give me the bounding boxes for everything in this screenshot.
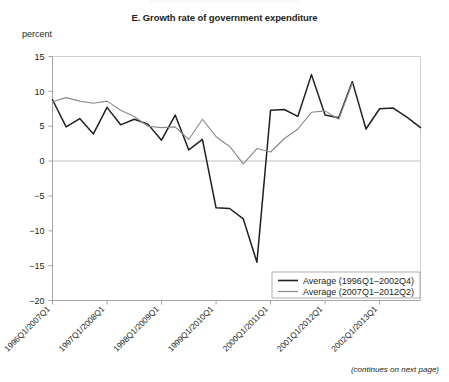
- svg-text:5: 5: [39, 121, 44, 131]
- svg-text:1998Q1/2009Q1: 1998Q1/2009Q1: [112, 304, 161, 353]
- continues-note: (continues on next page): [351, 365, 439, 374]
- y-tick-labels: 151050−5−10−15−20: [29, 52, 52, 306]
- svg-text:−20: −20: [29, 296, 44, 306]
- svg-text:1996Q1/2007Q1: 1996Q1/2007Q1: [3, 304, 52, 353]
- svg-text:1997Q1/2008Q1: 1997Q1/2008Q1: [57, 304, 106, 353]
- svg-text:2000Q1/2011Q1: 2000Q1/2011Q1: [221, 304, 270, 353]
- figure-panel: E. Growth rate of government expenditure…: [0, 0, 449, 382]
- svg-text:Average (2007Q1–2012Q2): Average (2007Q1–2012Q2): [303, 287, 414, 297]
- svg-text:−10: −10: [29, 226, 44, 236]
- svg-text:15: 15: [34, 52, 44, 62]
- series-layer: [53, 75, 421, 263]
- axis-layer: [53, 57, 421, 301]
- chart-legend: Average (1996Q1–2002Q4)Average (2007Q1–2…: [272, 272, 420, 298]
- svg-text:2001Q1/2012Q1: 2001Q1/2012Q1: [275, 304, 324, 353]
- line-chart: 151050−5−10−15−20 1996Q1/2007Q11997Q1/20…: [0, 0, 449, 382]
- svg-text:−5: −5: [34, 191, 44, 201]
- svg-text:0: 0: [39, 156, 44, 166]
- svg-text:−15: −15: [29, 261, 44, 271]
- svg-text:10: 10: [34, 87, 44, 97]
- svg-text:1999Q1/2010Q1: 1999Q1/2010Q1: [166, 304, 215, 353]
- svg-text:2002Q1/2013Q1: 2002Q1/2013Q1: [330, 304, 379, 353]
- svg-text:Average (1996Q1–2002Q4): Average (1996Q1–2002Q4): [303, 276, 414, 286]
- x-tick-labels: 1996Q1/2007Q11997Q1/2008Q11998Q1/2009Q11…: [3, 301, 380, 354]
